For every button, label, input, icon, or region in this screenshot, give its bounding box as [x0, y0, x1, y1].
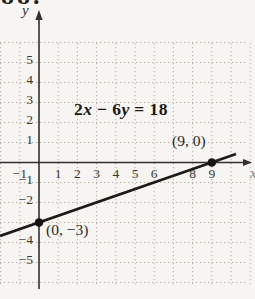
equation-var-y: y	[121, 99, 129, 119]
y-axis-label: y	[22, 3, 29, 18]
y-tick-label-1: 1	[2, 133, 33, 147]
y-tick-label-2: 2	[2, 113, 33, 127]
equation-part: 2	[74, 99, 83, 119]
equation-var-x: x	[83, 99, 92, 119]
y-tick-label--4: −4	[2, 233, 33, 247]
point-label-x-intercept: (9, 0)	[172, 132, 206, 149]
x-tick-label-6: 6	[143, 167, 165, 181]
y-tick-label-4: 4	[2, 73, 33, 87]
y-tick-label--5: −5	[2, 253, 33, 267]
x-axis-label: x	[250, 166, 255, 181]
point-label-y-intercept: (0, −3)	[46, 221, 88, 238]
y-tick-label--2: −2	[2, 193, 33, 207]
graph-canvas	[0, 0, 255, 299]
x-tick-label-9: 9	[201, 167, 223, 181]
line-equation: 2x − 6y = 18	[74, 99, 168, 120]
y-tick-label-5: 5	[2, 53, 33, 67]
y-tick-label-3: 3	[2, 93, 33, 107]
equation-part: = 18	[130, 99, 168, 119]
equation-part: − 6	[92, 99, 121, 119]
graph-figure: 88. y x 2x − 6y = 18 (9, 0) (0, −3) −112…	[0, 0, 255, 299]
y-tick-label--1: −1	[2, 173, 33, 187]
